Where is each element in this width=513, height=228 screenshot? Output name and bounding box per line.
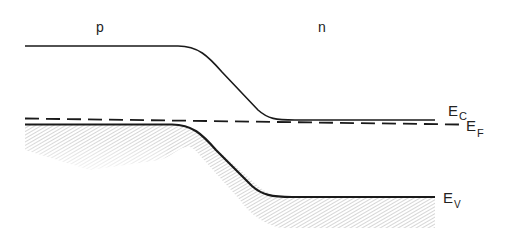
svg-text:F: F — [477, 127, 484, 139]
svg-text:E: E — [448, 102, 458, 119]
svg-text:E: E — [443, 189, 453, 206]
n-region-label: n — [318, 19, 326, 35]
ev-label: E V — [443, 189, 461, 210]
band-diagram: p n E C E F E V — [0, 0, 513, 228]
conduction-band-edge — [25, 46, 435, 120]
valence-band-shading — [25, 125, 435, 228]
svg-text:V: V — [454, 199, 461, 210]
ef-label: E F — [466, 117, 484, 139]
svg-text:E: E — [466, 117, 476, 134]
p-region-label: p — [96, 19, 104, 35]
ec-label: E C — [448, 102, 467, 122]
